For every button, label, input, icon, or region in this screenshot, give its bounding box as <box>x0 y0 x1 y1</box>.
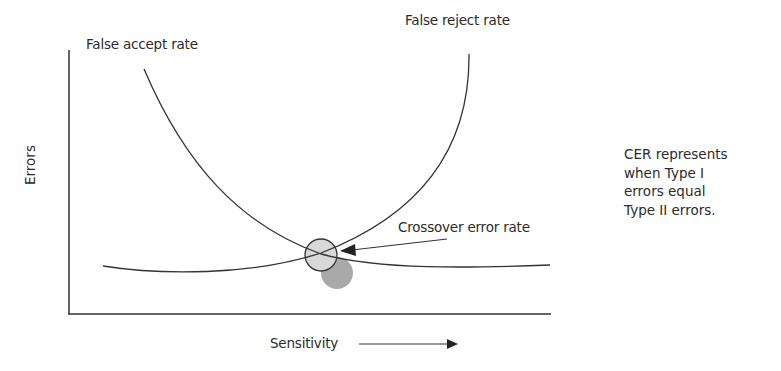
sensitivity-arrowhead <box>447 339 458 349</box>
false-accept-rate-curve <box>144 69 550 267</box>
false-accept-rate-label: False accept rate <box>86 36 198 52</box>
crossover-circle <box>305 239 337 271</box>
x-axis-label: Sensitivity <box>270 335 338 351</box>
note-line: when Type I <box>624 164 728 183</box>
false-reject-rate-label: False reject rate <box>405 12 510 28</box>
cer-explanation-note: CER represents when Type I errors equal … <box>624 145 728 219</box>
note-line: errors equal <box>624 182 728 201</box>
note-line: CER represents <box>624 145 728 164</box>
crossover-pointer-line <box>352 239 447 250</box>
crossover-pointer-arrowhead <box>340 244 356 256</box>
note-line: Type II errors. <box>624 201 728 220</box>
y-axis-label: Errors <box>22 145 38 185</box>
crossover-error-rate-label: Crossover error rate <box>398 219 530 235</box>
